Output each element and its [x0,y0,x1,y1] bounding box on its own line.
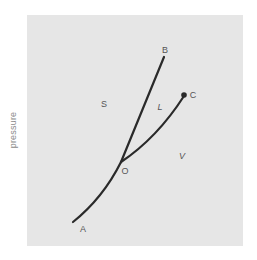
phase-diagram: B C O A S L V [0,0,257,260]
region-label-vapor: V [179,151,186,161]
region-label-solid: S [101,99,107,109]
region-label-liquid: L [157,102,162,112]
point-label-a: A [80,224,86,234]
curve-vaporization-o-c [121,96,184,162]
point-label-b: B [162,45,168,55]
point-label-o: O [121,166,128,176]
point-label-c: C [190,90,197,100]
critical-point-marker [181,92,187,98]
curve-sublimation-a-o [73,162,121,222]
